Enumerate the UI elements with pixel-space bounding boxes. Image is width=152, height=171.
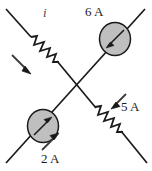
wire-nw-upper	[6, 9, 31, 37]
label-current-2a: 2 A	[41, 152, 59, 165]
circuit-canvas	[0, 0, 152, 171]
wire-se-lower	[121, 131, 147, 163]
circuit-figure: i 6 A 5 A 2 A	[0, 0, 152, 171]
label-current-i: i	[43, 6, 47, 19]
label-current-5a: 5 A	[121, 100, 139, 113]
current-source-upper-right	[100, 23, 131, 56]
resistor-lower-right-icon	[95, 106, 123, 132]
current-arrow-i	[12, 55, 31, 74]
arrow-head-5a	[111, 102, 120, 109]
label-current-6a: 6 A	[85, 5, 103, 18]
resistor-upper-left-icon	[31, 36, 59, 62]
